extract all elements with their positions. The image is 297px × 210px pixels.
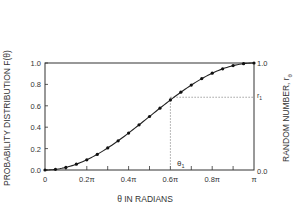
x-tick-label: 0: [43, 175, 47, 184]
data-point: [232, 64, 235, 67]
data-markers: [43, 61, 255, 171]
x-axis-label-text: θ IN RADIANS: [117, 194, 173, 204]
data-point: [179, 91, 182, 94]
data-point: [117, 139, 120, 142]
r1-label: r1: [257, 92, 262, 101]
data-point: [190, 83, 193, 86]
y-tick-label: 0.8: [31, 80, 41, 89]
data-point: [127, 131, 130, 134]
y-tick-label: 0.6: [31, 102, 41, 111]
data-point: [200, 77, 203, 80]
x-axis-label: θ IN RADIANS: [117, 194, 173, 204]
right-y-tick-label: 0.0: [257, 167, 267, 176]
theta1-subscript: 1: [181, 163, 184, 169]
data-point: [64, 166, 67, 169]
right-axis-label-text: RANDOM NUMBER, r: [281, 77, 291, 162]
y-tick-label: 0.4: [31, 123, 41, 132]
data-point: [158, 107, 161, 110]
data-point: [252, 61, 255, 64]
data-point: [75, 163, 78, 166]
x-tick-label: 0.6π: [163, 175, 179, 184]
data-point: [221, 67, 224, 70]
data-point: [54, 168, 57, 171]
x-tick-label: 0.8π: [204, 175, 220, 184]
axis-ticks: 0.00.20.40.60.81.00.01.000.2π0.4π0.6π0.8…: [31, 59, 268, 184]
data-point: [242, 62, 245, 65]
theta1-label: θ1: [177, 159, 185, 169]
data-point: [169, 98, 172, 101]
reference-lines: [170, 97, 254, 170]
y-tick-label: 0.0: [31, 166, 41, 175]
data-point: [43, 168, 46, 171]
y-tick-label: 1.0: [31, 59, 41, 68]
x-tick-label: 0.2π: [79, 175, 95, 184]
data-point: [106, 146, 109, 149]
data-point: [96, 153, 99, 156]
svg-text:RANDOM NUMBER, rθ: RANDOM NUMBER, rθ: [281, 73, 293, 162]
r1-subscript: 1: [259, 95, 262, 101]
data-point: [148, 115, 151, 118]
data-point: [211, 72, 214, 75]
right-axis-label: RANDOM NUMBER, rθ: [281, 73, 293, 162]
y-axis-label: PROBABILITY DISTRIBUTION F(θ): [2, 50, 12, 186]
right-axis-label-sub: θ: [287, 73, 293, 77]
probability-distribution-chart: 0.00.20.40.60.81.00.01.000.2π0.4π0.6π0.8…: [0, 0, 297, 210]
x-tick-label: π: [251, 175, 256, 184]
data-point: [85, 158, 88, 161]
x-tick-label: 0.4π: [121, 175, 137, 184]
data-point: [137, 123, 140, 126]
right-y-tick-label: 1.0: [257, 59, 267, 68]
y-tick-label: 0.2: [31, 145, 41, 154]
